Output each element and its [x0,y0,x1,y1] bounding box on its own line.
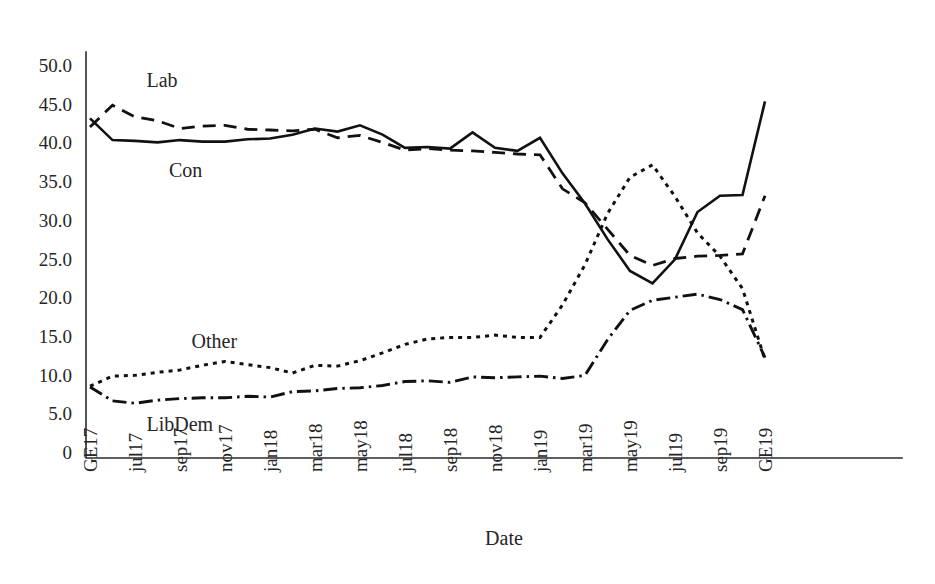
x-tick-label: jul17 [125,433,146,473]
x-tick-label: nov17 [215,425,236,473]
series-annotation-libdem: LibDem [147,413,214,435]
y-tick-label: 15.0 [39,326,72,347]
axis-lines [86,52,902,458]
series-line-lab [90,105,765,265]
y-tick-label: 30.0 [39,210,72,231]
x-tick-label: jan18 [260,430,281,473]
y-tick-label: 25.0 [39,249,72,270]
series-line-other [90,165,765,386]
y-tick-label: 0 [63,442,73,463]
chart-container: 50.045.040.035.030.025.020.015.010.05.00… [0,0,935,584]
x-tick-label: may19 [620,420,641,472]
x-tick-label: GE19 [755,428,776,472]
x-tick-label: jul19 [665,433,686,473]
x-tick-label: jul18 [395,433,416,473]
x-tick-label: jan19 [530,430,551,473]
x-tick-label: sep18 [440,428,461,472]
series-annotation-con: Con [169,159,202,181]
y-axis-tick-labels: 50.045.040.035.030.025.020.015.010.05.00 [39,55,72,463]
series-annotation-lab: Lab [147,69,178,91]
poll-trend-line-chart: 50.045.040.035.030.025.020.015.010.05.00… [0,0,935,584]
y-tick-label: 40.0 [39,132,72,153]
x-tick-label: may18 [350,420,371,472]
y-tick-label: 20.0 [39,287,72,308]
y-tick-label: 5.0 [48,403,72,424]
x-tick-label: GE17 [80,428,101,472]
chart-axes [86,52,902,458]
y-tick-label: 10.0 [39,365,72,386]
series-annotation-other: Other [192,330,238,352]
y-tick-label: 45.0 [39,94,72,115]
x-tick-label: mar19 [575,423,596,472]
x-tick-label: mar18 [305,423,326,472]
y-tick-label: 50.0 [39,55,72,76]
x-tick-label: sep19 [710,428,731,472]
data-series-group [90,101,765,403]
x-axis-title-group: Date [485,527,523,549]
y-tick-label: 35.0 [39,171,72,192]
x-tick-label: nov18 [485,425,506,473]
x-axis-title: Date [485,527,523,549]
